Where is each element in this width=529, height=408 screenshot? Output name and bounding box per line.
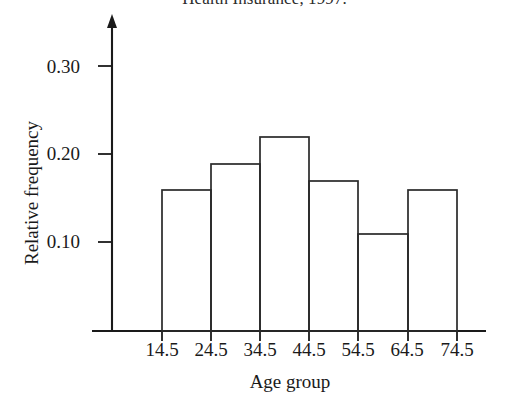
plot-area (0, 0, 529, 408)
y-axis (107, 14, 117, 332)
x-axis-ticks (162, 331, 457, 341)
bar-54-5-64-5 (358, 234, 408, 331)
histogram-figure: Health Insurance, 1997. Relative frequen… (0, 0, 529, 408)
bar-64-5-74-5 (408, 190, 457, 331)
y-axis-arrow-icon (107, 14, 117, 28)
y-axis-ticks (98, 66, 112, 242)
bar-44-5-54-5 (309, 181, 358, 331)
bar-14-5-24-5 (162, 190, 211, 331)
histogram-bars (162, 137, 457, 331)
bar-34-5-44-5 (260, 137, 309, 331)
bar-24-5-34-5 (211, 164, 260, 331)
